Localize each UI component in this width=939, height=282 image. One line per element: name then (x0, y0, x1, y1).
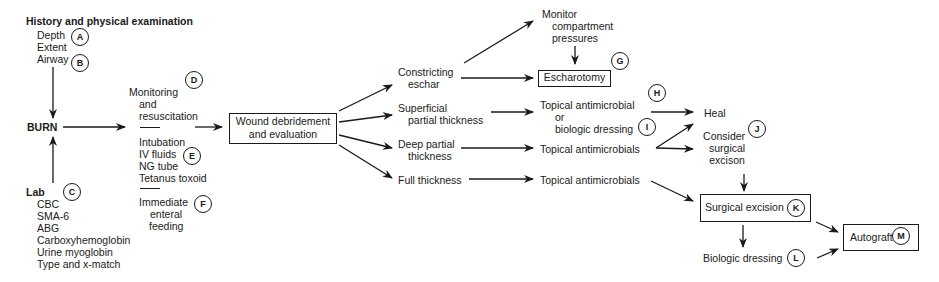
label-a: A (71, 28, 89, 46)
topical-full: Topical antimicrobials (540, 174, 640, 186)
deep-partial: Deep partial thickness (398, 138, 455, 162)
wound-line: and evaluation (230, 128, 336, 141)
divider (140, 188, 160, 189)
label-g: G (611, 52, 629, 70)
label-j: J (748, 120, 766, 138)
monitoring-line: resuscitation (139, 110, 198, 122)
wound-debridement-box: Wound debridement and evaluation (229, 113, 337, 144)
label-b: B (71, 54, 89, 72)
feeding-line: feeding (149, 220, 183, 232)
intervention-item: IV fluids (139, 148, 176, 160)
consider-surgical-excision: Consider surgical excison (703, 130, 745, 166)
heal-node: Heal (704, 107, 726, 119)
label-h: H (648, 84, 666, 102)
label-m: M (892, 227, 910, 245)
escharotomy-box: Escharotomy (538, 70, 611, 87)
lab-item: ABG (37, 222, 59, 234)
feeding-line: enteral (150, 208, 182, 220)
burn-node: BURN (27, 121, 57, 133)
constricting-eschar: Constricting eschar (398, 66, 453, 90)
monitoring-line: and (139, 98, 157, 110)
label-l: L (787, 249, 805, 267)
label-i: I (638, 118, 656, 136)
lab-item: SMA-6 (37, 210, 69, 222)
divider (140, 127, 160, 128)
label-d: D (185, 71, 203, 89)
intervention-item: NG tube (139, 160, 178, 172)
feeding-line: Immediate (139, 196, 188, 208)
monitoring-line: Monitoring (129, 86, 178, 98)
wound-line: Wound debridement (230, 115, 336, 128)
lab-item: CBC (37, 198, 59, 210)
intervention-item: Intubation (139, 136, 185, 148)
monitor-compartment: Monitor compartment pressures (542, 8, 613, 44)
superficial-partial: Superficial partial thickness (398, 102, 483, 126)
history-title: History and physical examination (26, 15, 193, 27)
label-c: C (63, 183, 81, 201)
intervention-item: Tetanus toxoid (139, 172, 207, 184)
label-e: E (183, 147, 201, 165)
lab-item: Carboxyhemoglobin (37, 234, 130, 246)
topical-or-biologic: Topical antimicrobial or biologic dressi… (540, 99, 635, 135)
full-thickness: Full thickness (398, 174, 462, 186)
label-k: K (787, 199, 805, 217)
history-item-depth: Depth (37, 29, 65, 41)
lab-title: Lab (26, 186, 45, 198)
label-f: F (194, 195, 212, 213)
biologic-dressing: Biologic dressing (703, 252, 782, 264)
history-item-extent: Extent (37, 41, 67, 53)
topical-deep: Topical antimicrobials (540, 143, 640, 155)
lab-item: Type and x-match (37, 258, 120, 270)
lab-item: Urine myoglobin (37, 246, 113, 258)
history-item-airway: Airway (37, 53, 69, 65)
